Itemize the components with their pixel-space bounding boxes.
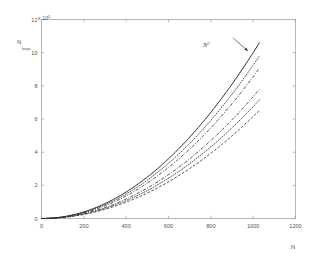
y-axis-tick-labels: 024681012 (31, 17, 37, 222)
chart-plot: 020040060080010001200 024681012 x 105 N … (0, 0, 314, 265)
n-squared-label: N2 (202, 41, 210, 48)
y-axis-ticks (42, 20, 296, 219)
x-tick-label: 800 (206, 223, 215, 229)
y-axis-label-subscript: keys (22, 46, 32, 51)
data-curve (42, 56, 260, 219)
n-squared-annotation: N2 (202, 38, 248, 51)
y-tick-label: 8 (34, 83, 37, 89)
x-tick-label: 1000 (247, 223, 259, 229)
y-tick-label: 0 (34, 216, 37, 222)
data-curve (42, 89, 260, 218)
data-curve (42, 43, 260, 219)
data-curve (42, 100, 260, 219)
y-axis-exponent-label: x 105 (38, 14, 50, 21)
axis-frame (42, 20, 296, 219)
y-tick-label: 10 (31, 50, 37, 56)
x-axis-ticks (42, 20, 296, 219)
y-tick-label: 2 (34, 182, 37, 188)
x-tick-label: 400 (121, 223, 130, 229)
x-tick-label: 1200 (289, 223, 301, 229)
x-axis-tick-labels: 020040060080010001200 (40, 223, 302, 229)
data-curve (42, 110, 260, 218)
data-curves (42, 43, 260, 219)
y-axis-label-main: N (17, 39, 21, 45)
y-tick-label: 4 (34, 149, 37, 155)
x-tick-label: 600 (164, 223, 173, 229)
x-axis-label: N (291, 244, 295, 250)
x-tick-label: 0 (40, 223, 43, 229)
y-tick-label: 6 (34, 116, 37, 122)
figure-canvas: 020040060080010001200 024681012 x 105 N … (0, 0, 314, 265)
x-tick-label: 200 (79, 223, 88, 229)
y-tick-label: 12 (31, 17, 37, 23)
